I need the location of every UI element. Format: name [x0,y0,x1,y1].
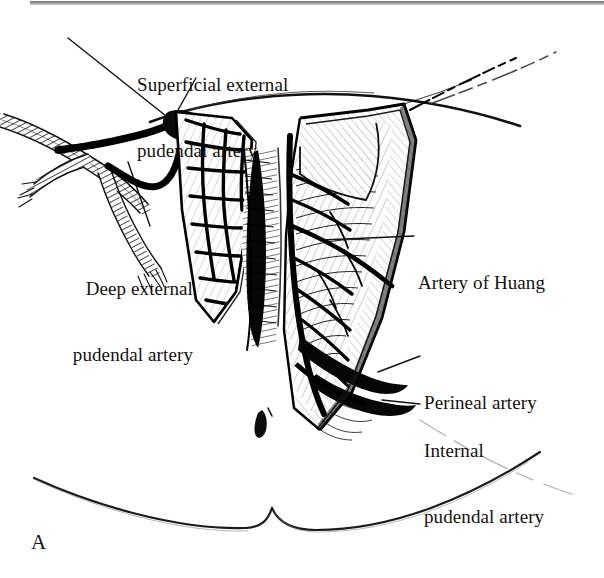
label-artery-of-huang: Artery of Huang [418,228,598,338]
label-internal-pudendal-artery: Internal pudendal artery [424,396,602,572]
label-line-1: Superficial external [137,74,337,96]
label-line-2: pudendal artery [137,140,337,162]
label-line-1: Deep external [28,278,193,300]
label-line-2: pudendal artery [28,344,193,366]
figure-panel-a: Superficial external pudendal artery Dee… [0,0,604,578]
label-deep-external-pudendal-artery: Deep external pudendal artery [28,234,193,410]
label-line-2: pudendal artery [424,506,602,528]
label-line-1: Artery of Huang [418,272,598,294]
label-line-1: Internal [424,440,602,462]
label-superficial-external-pudendal-artery: Superficial external pudendal artery [137,30,337,206]
panel-letter: A [31,532,46,553]
